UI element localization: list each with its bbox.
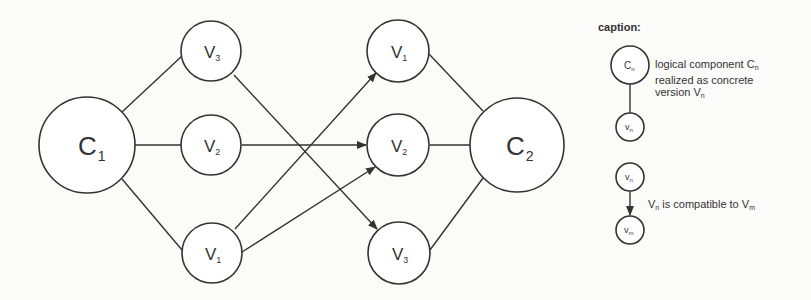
version-node-right-v3: V3 (368, 222, 430, 284)
version-node-right-v1: V1 (367, 20, 429, 82)
edge-v3-c2 (430, 178, 483, 250)
edge-c1-v1 (122, 179, 182, 250)
legend-component-node: Cn (611, 46, 649, 84)
arrow-v1-to-v2 (242, 167, 375, 252)
caption-title: caption: (598, 21, 641, 33)
component-node-c1: C1 (39, 97, 135, 193)
diagram-canvas: C1 V3 V2 V1 V1 V2 V3 C2 Cn vn (0, 0, 811, 300)
legend-version-node-m: vm (616, 216, 644, 244)
legend-realization-text: logical component Cn realized as concret… (655, 58, 759, 102)
legend-version-node: vn (616, 113, 644, 141)
version-node-left-v2: V2 (181, 115, 241, 175)
version-node-right-v2: V2 (367, 114, 429, 176)
version-node-left-v1: V1 (182, 223, 242, 283)
legend-compatibility-text: Vn is compatible to Vm (648, 198, 755, 214)
edge-c1-v3 (122, 56, 182, 112)
version-node-left-v3: V3 (181, 21, 241, 81)
component-node-c2: C2 (470, 98, 564, 192)
legend-version-node-n: vn (616, 163, 644, 191)
edge-v1-c2 (429, 54, 483, 111)
